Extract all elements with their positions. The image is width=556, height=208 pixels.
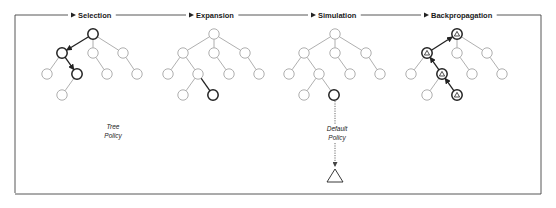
tree-node (497, 69, 507, 79)
tree-node (422, 90, 432, 100)
tree-edge (307, 78, 316, 91)
default-policy-line1: Default (327, 125, 349, 132)
tree-node-highlighted (452, 29, 462, 39)
mcts-diagram: Selection Expansion Simulation Backpropa… (0, 0, 556, 208)
tree-node (299, 48, 309, 58)
default-policy-rollout: Default Policy (327, 101, 349, 182)
tree-edge (217, 57, 226, 70)
tree-edge (65, 78, 74, 91)
loop-border (15, 15, 541, 194)
tree-edge (97, 37, 118, 50)
tree-node (452, 48, 462, 58)
tree-edge (460, 57, 469, 70)
tree-node (406, 69, 416, 79)
tree-node (88, 48, 98, 58)
tree-node-highlighted (72, 69, 82, 79)
tree-node-highlighted (329, 90, 339, 100)
tree-node-highlighted (57, 48, 67, 58)
tree-node (345, 69, 355, 79)
tree-edge-arrow (445, 79, 454, 91)
default-policy-line2: Policy (328, 134, 346, 142)
stage-label-simulation: Simulation (318, 11, 357, 20)
tree-node-highlighted (437, 69, 447, 79)
tree-edge (414, 57, 424, 70)
tree-node (330, 29, 340, 39)
tree-node (193, 69, 203, 79)
tree-expansion (163, 29, 264, 100)
tree-edge (50, 57, 59, 70)
tree-node (42, 69, 52, 79)
tree-node (178, 90, 188, 100)
tree-edge (218, 37, 240, 51)
tree-node (224, 69, 234, 79)
tree-edge (430, 78, 439, 91)
tree-node (467, 69, 477, 79)
tree-edge (339, 37, 361, 51)
tree-node (330, 48, 340, 58)
tree-edge (461, 37, 482, 50)
tree-node (163, 69, 173, 79)
tree-backpropagation (406, 29, 507, 100)
trees (42, 29, 507, 100)
tree-edge (322, 78, 331, 91)
tree-edge (171, 57, 180, 70)
stage-label-selection: Selection (78, 11, 112, 20)
tree-edge (369, 57, 377, 69)
tree-edge (248, 57, 256, 69)
tree-node (178, 48, 188, 58)
tree-edge (201, 78, 210, 91)
tree-node (132, 69, 142, 79)
tree-node (209, 48, 219, 58)
tree-edge-arrow (430, 58, 439, 70)
tree-node-highlighted (422, 48, 432, 58)
tree-node (284, 69, 294, 79)
tree-edge (308, 37, 330, 51)
tree-edge (307, 57, 316, 70)
loop-frame (15, 15, 541, 194)
tree-edge (186, 57, 195, 70)
tree-node (254, 69, 264, 79)
tree-edge (187, 37, 209, 51)
terminal-triangle-icon (327, 169, 343, 182)
tree-policy-label: Tree Policy (104, 123, 122, 140)
tree-edge (186, 78, 195, 91)
tree-node (240, 48, 250, 58)
tree-selection (42, 29, 142, 100)
tree-edge (490, 57, 499, 70)
tree-node-highlighted (452, 90, 462, 100)
tree-node (482, 48, 492, 58)
tree-edge (126, 57, 134, 69)
tree-edge (338, 57, 347, 70)
tree-policy-line1: Tree (107, 123, 120, 130)
tree-node-highlighted (208, 90, 218, 100)
stage-label-expansion: Expansion (196, 11, 234, 20)
tree-node-highlighted (88, 29, 98, 39)
tree-node (118, 48, 128, 58)
tree-edge-arrow (65, 57, 74, 69)
tree-node (299, 90, 309, 100)
stage-label-backpropagation: Backpropagation (431, 11, 493, 20)
tree-node (314, 69, 324, 79)
tree-node (361, 48, 371, 58)
tree-node (102, 69, 112, 79)
tree-node (209, 29, 219, 39)
tree-node (57, 90, 67, 100)
tree-edge-arrow (431, 37, 452, 50)
tree-policy-line2: Policy (104, 132, 122, 140)
tree-edge (96, 57, 104, 69)
tree-edge-arrow (67, 37, 89, 50)
tree-edge (292, 57, 301, 70)
tree-simulation (284, 29, 385, 100)
tree-node (375, 69, 385, 79)
